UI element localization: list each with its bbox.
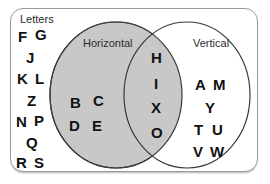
letter-intersection: X [151, 100, 161, 115]
letter-horizontal-only: D [69, 118, 80, 133]
letter-outside: K [17, 71, 28, 86]
letter-outside: Z [27, 93, 36, 108]
letter-outside: R [16, 155, 27, 170]
letter-vertical-only: M [213, 77, 226, 92]
letter-outside: S [34, 155, 44, 170]
letter-vertical-only: V [193, 144, 203, 159]
letter-outside: F [18, 29, 27, 44]
letter-intersection: I [154, 76, 158, 91]
letter-horizontal-only: C [93, 93, 104, 108]
set-label-horizontal: Horizontal [83, 38, 133, 49]
letter-vertical-only: W [210, 144, 224, 159]
letter-horizontal-only: E [92, 118, 102, 133]
letter-outside: J [26, 50, 34, 65]
letter-outside: P [34, 113, 44, 128]
letter-vertical-only: U [212, 122, 223, 137]
letter-intersection: O [151, 125, 163, 140]
universe-label: Letters [20, 14, 54, 25]
letter-vertical-only: A [195, 77, 206, 92]
letter-outside: G [35, 27, 47, 42]
letter-horizontal-only: B [70, 95, 81, 110]
set-label-vertical: Vertical [193, 38, 229, 49]
letter-outside: Q [26, 135, 38, 150]
venn-diagram-figure: Letters Horizontal Vertical FGJKLZNPQRSB… [0, 0, 270, 184]
letter-outside: L [35, 71, 44, 86]
letter-vertical-only: Y [205, 100, 215, 115]
letter-intersection: H [151, 50, 162, 65]
letter-vertical-only: T [194, 122, 203, 137]
letter-outside: N [16, 114, 27, 129]
